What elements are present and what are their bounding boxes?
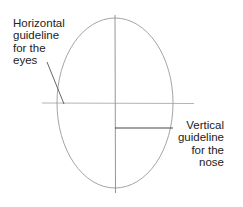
eyes-guideline-label: Horizontal guideline for the eyes [13, 17, 65, 66]
nose-label-line: Vertical [178, 119, 224, 131]
vertical-centerline [115, 15, 116, 193]
nose-label-line: nose [178, 156, 224, 168]
eyes-label-line: Horizontal [13, 17, 65, 29]
eyes-label-line: guideline [13, 29, 65, 41]
nose-label-line: guideline [178, 131, 224, 143]
nose-label-line: for the [178, 144, 224, 156]
horizontal-eye-guideline [42, 103, 194, 104]
eyes-label-line: for the [13, 42, 65, 54]
eyes-label-line: eyes [13, 54, 65, 66]
nose-guideline-label: Vertical guideline for the nose [178, 119, 224, 168]
